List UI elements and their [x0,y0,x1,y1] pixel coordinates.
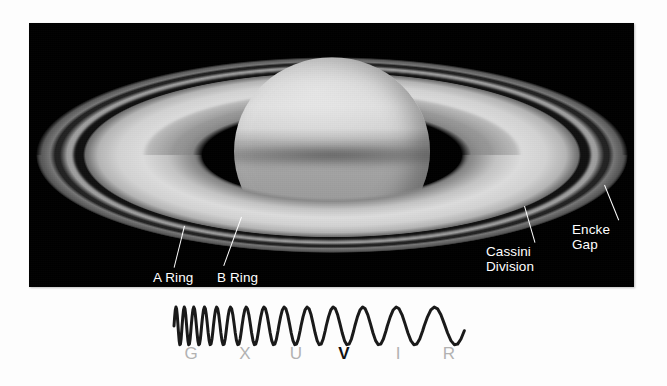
annotation-label-cassini-division: Cassini Division [486,245,534,274]
spectrum-band-u: U [290,344,302,364]
spectrum-band-v: V [338,344,349,364]
spectrum-band-x: X [239,344,250,364]
ring-front-half [29,155,634,287]
spectrum-band-labels: GXUVIR [170,344,470,370]
spectrum-band-g: G [184,344,197,364]
saturn-scene [29,23,634,287]
saturn-photo-figure: A Ring B Ring Cassini Division Encke Gap [29,23,634,287]
spectrum-band-r: R [443,344,455,364]
electromagnetic-spectrum-diagram: GXUVIR [170,296,470,380]
annotation-label-encke-gap: Encke Gap [572,223,610,252]
spectrum-band-i: I [396,344,401,364]
annotation-label-b-ring: B Ring [217,271,258,286]
annotation-label-a-ring: A Ring [153,271,193,286]
spectrum-wave-icon [170,296,470,348]
